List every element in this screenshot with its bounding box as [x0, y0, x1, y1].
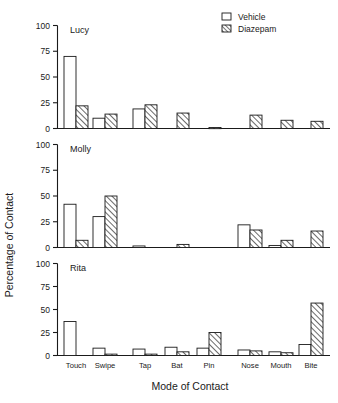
rita-axis [58, 264, 331, 356]
lucy-ytick-75: 75 [41, 46, 51, 56]
bar-chart-figure: Percentage of Contact Vehicle Diazepam L… [0, 0, 338, 403]
bar-molly-nose-vehicle [238, 225, 250, 248]
x-axis-title: Mode of Contact [151, 380, 228, 392]
bar-molly-mouth-vehicle [269, 245, 281, 247]
lucy-ytick-25: 25 [41, 98, 51, 108]
x-category-label-tap: Tap [139, 361, 151, 370]
rita-y-tick-labels: 100 75 50 25 0 [36, 259, 50, 361]
legend-swatch-vehicle [222, 13, 231, 20]
rita-bars [64, 303, 323, 355]
bar-molly-mouth-diazepam [281, 240, 293, 247]
molly-y-ticks [53, 145, 58, 248]
lucy-axis [58, 26, 331, 129]
panel-label-rita: Rita [70, 263, 86, 273]
bar-lucy-swipe-vehicle [93, 118, 105, 128]
panel-label-molly: Molly [70, 144, 92, 154]
bar-molly-bite-diazepam [311, 231, 323, 247]
bar-lucy-bite-diazepam [311, 121, 323, 128]
bar-rita-bite-diazepam [311, 303, 323, 355]
x-category-label-touch: Touch [66, 361, 86, 370]
bar-rita-bite-vehicle [299, 344, 311, 355]
legend-label-vehicle: Vehicle [238, 12, 266, 22]
bar-lucy-nose-diazepam [250, 115, 262, 128]
rita-y-ticks [53, 264, 58, 356]
lucy-ytick-50: 50 [41, 72, 51, 82]
figure-container: Percentage of Contact Vehicle Diazepam L… [0, 0, 338, 403]
rita-ytick-0: 0 [45, 351, 50, 361]
bar-rita-pin-vehicle [197, 348, 209, 355]
rita-ytick-25: 25 [41, 328, 51, 338]
bar-rita-touch-vehicle [64, 321, 76, 355]
bar-molly-swipe-vehicle [93, 217, 105, 248]
x-category-label-pin: Pin [204, 361, 215, 370]
x-category-label-swipe: Swipe [95, 361, 116, 370]
bar-rita-pin-diazepam [209, 333, 221, 356]
molly-ytick-100: 100 [36, 140, 50, 150]
lucy-ytick-0: 0 [45, 124, 50, 134]
rita-ytick-75: 75 [41, 282, 51, 292]
legend-label-diazepam: Diazepam [238, 24, 276, 34]
lucy-y-ticks [53, 26, 58, 129]
lucy-bars [64, 56, 323, 128]
bar-rita-mouth-vehicle [269, 352, 281, 356]
bar-rita-bat-vehicle [165, 347, 177, 355]
x-category-label-bat: Bat [171, 361, 183, 370]
bar-rita-nose-vehicle [238, 350, 250, 356]
molly-ytick-75: 75 [41, 165, 51, 175]
bar-rita-bat-diazepam [177, 352, 189, 356]
panel-label-lucy: Lucy [70, 25, 90, 35]
molly-y-tick-labels: 100 75 50 25 0 [36, 140, 50, 253]
rita-ytick-100: 100 [36, 259, 50, 269]
panel-molly: Molly 100 75 50 25 0 [36, 140, 330, 253]
bar-lucy-bat-diazepam [177, 113, 189, 128]
lucy-ytick-100: 100 [36, 21, 50, 31]
y-axis-title: Percentage of Contact [3, 193, 15, 298]
x-category-label-nose: Nose [241, 361, 259, 370]
rita-ytick-50: 50 [41, 305, 51, 315]
bar-rita-swipe-diazepam [105, 354, 117, 355]
panel-rita: Rita 100 75 50 25 0 [36, 259, 330, 361]
bar-lucy-tap-vehicle [133, 109, 145, 129]
bar-rita-tap-vehicle [133, 349, 145, 355]
panel-lucy: Lucy 100 75 50 25 0 [36, 21, 330, 134]
bar-lucy-touch-diazepam [76, 106, 88, 129]
molly-ytick-0: 0 [45, 243, 50, 253]
bar-lucy-swipe-diazepam [105, 114, 117, 128]
bar-rita-tap-diazepam [145, 354, 157, 355]
molly-ytick-25: 25 [41, 217, 51, 227]
bar-rita-nose-diazepam [250, 351, 262, 356]
molly-bars [64, 196, 323, 248]
lucy-y-tick-labels: 100 75 50 25 0 [36, 21, 50, 134]
bar-lucy-mouth-diazepam [281, 120, 293, 128]
x-axis-category-labels: TouchSwipeTapBatPinNoseMouthBite [66, 361, 318, 370]
bar-molly-nose-diazepam [250, 230, 262, 248]
legend: Vehicle Diazepam [222, 12, 276, 34]
bar-rita-swipe-vehicle [93, 348, 105, 355]
bar-rita-mouth-diazepam [281, 353, 293, 356]
x-category-label-mouth: Mouth [270, 361, 291, 370]
bar-molly-swipe-diazepam [105, 196, 117, 248]
legend-swatch-diazepam [222, 25, 231, 32]
bar-lucy-pin-diazepam [209, 127, 221, 128]
molly-ytick-50: 50 [41, 191, 51, 201]
bar-lucy-touch-vehicle [64, 56, 76, 128]
bar-lucy-tap-diazepam [145, 105, 157, 129]
x-category-label-bite: Bite [304, 361, 317, 370]
bar-molly-bat-diazepam [177, 244, 189, 247]
bar-molly-touch-diazepam [76, 240, 88, 247]
bar-molly-tap-vehicle [133, 246, 145, 248]
bar-molly-touch-vehicle [64, 204, 76, 247]
